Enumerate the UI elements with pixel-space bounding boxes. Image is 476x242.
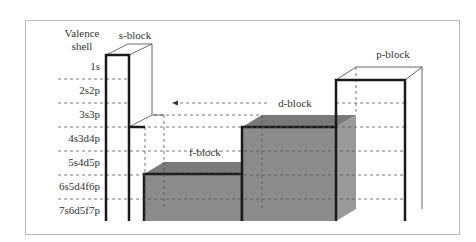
shell-label: 7s6d5f7p: [59, 204, 100, 216]
d-block-label: d-block: [278, 97, 312, 109]
arrow-left-icon: [172, 101, 178, 106]
shell-label: 2s2p: [79, 84, 100, 96]
s-block-label: s-block: [119, 29, 152, 41]
shell-label: 6s5d4f6p: [59, 180, 100, 192]
d-block: [242, 115, 356, 221]
shell-label: 4s3d4p: [68, 132, 100, 144]
axis-title-line1: Valence: [65, 27, 100, 39]
f-block-label: f-block: [189, 146, 221, 158]
shell-label: 5s4d5p: [68, 156, 100, 168]
axis-title-line2: shell: [72, 40, 93, 52]
periodic-blocks-diagram: Valence shell 1s 2s2p 3s3p 4s3d4p 5s4d5p…: [0, 0, 476, 242]
p-block-label: p-block: [376, 48, 410, 60]
shell-labels: 1s 2s2p 3s3p 4s3d4p 5s4d5p 6s5d4f6p 7s6d…: [59, 60, 100, 216]
shell-label: 3s3p: [79, 108, 100, 120]
shell-label: 1s: [90, 60, 100, 72]
